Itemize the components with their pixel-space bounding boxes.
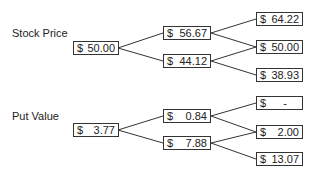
node-value: 3.77 bbox=[94, 124, 115, 136]
node-value: 44.12 bbox=[179, 55, 207, 67]
node-value: - bbox=[283, 97, 287, 109]
node-value: 50.00 bbox=[271, 41, 299, 53]
put-node-up-up: $ - bbox=[256, 96, 303, 110]
currency-symbol: $ bbox=[260, 97, 266, 109]
stock-node-up-up: $ 64.22 bbox=[256, 12, 303, 26]
node-value: 13.07 bbox=[271, 153, 299, 165]
currency-symbol: $ bbox=[167, 110, 173, 122]
node-value: 38.93 bbox=[271, 69, 299, 81]
put-node-up-down: $ 2.00 bbox=[256, 125, 303, 139]
currency-symbol: $ bbox=[77, 42, 83, 54]
node-value: 0.84 bbox=[186, 110, 207, 122]
currency-symbol: $ bbox=[260, 41, 266, 53]
node-value: 7.88 bbox=[186, 137, 207, 149]
currency-symbol: $ bbox=[260, 13, 266, 25]
put-node-down-down: $ 13.07 bbox=[256, 152, 303, 166]
currency-symbol: $ bbox=[167, 137, 173, 149]
put-node-root: $ 3.77 bbox=[73, 123, 119, 137]
currency-symbol: $ bbox=[260, 153, 266, 165]
put-value-label: Put Value bbox=[12, 110, 59, 122]
node-value: 64.22 bbox=[271, 13, 299, 25]
stock-node-root: $ 50.00 bbox=[73, 41, 119, 55]
currency-symbol: $ bbox=[167, 55, 173, 67]
stock-node-down-down: $ 38.93 bbox=[256, 68, 303, 82]
put-node-down: $ 7.88 bbox=[163, 136, 211, 150]
node-value: 50.00 bbox=[87, 42, 115, 54]
put-node-up: $ 0.84 bbox=[163, 109, 211, 123]
currency-symbol: $ bbox=[260, 126, 266, 138]
stock-node-up: $ 56.67 bbox=[163, 26, 211, 40]
stock-node-up-down: $ 50.00 bbox=[256, 40, 303, 54]
stock-price-label: Stock Price bbox=[12, 27, 68, 39]
stock-node-down: $ 44.12 bbox=[163, 54, 211, 68]
node-value: 2.00 bbox=[278, 126, 299, 138]
currency-symbol: $ bbox=[77, 124, 83, 136]
currency-symbol: $ bbox=[167, 27, 173, 39]
node-value: 56.67 bbox=[179, 27, 207, 39]
currency-symbol: $ bbox=[260, 69, 266, 81]
